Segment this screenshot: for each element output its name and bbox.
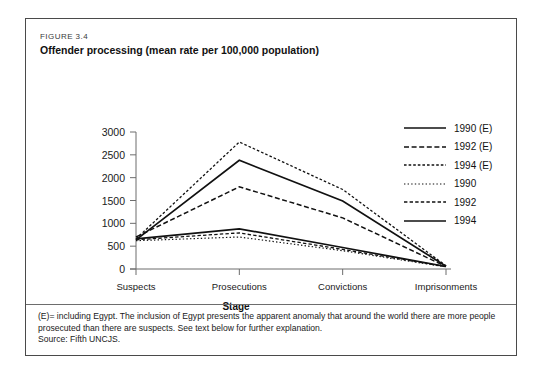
x-tick-label: Imprisonments xyxy=(415,281,478,292)
y-tick-label: 2500 xyxy=(102,149,126,161)
chart-series-line xyxy=(136,187,446,267)
chart-series-line xyxy=(136,237,446,267)
y-axis-ticks: 050010001500200025003000 xyxy=(102,126,136,275)
legend-line-swatch xyxy=(404,160,446,170)
legend-item[interactable]: 1992 xyxy=(404,193,514,212)
footnote-note: (E)= including Egypt. The inclusion of E… xyxy=(38,311,498,334)
footnote-source: Source: Fifth UNCJS. xyxy=(38,334,498,346)
footnote: (E)= including Egypt. The inclusion of E… xyxy=(38,311,498,346)
y-tick-label: 2000 xyxy=(102,172,126,184)
legend-line-swatch xyxy=(404,179,446,189)
figure-caption: FIGURE 3.4 Offender processing (mean rat… xyxy=(40,31,370,58)
legend-item[interactable]: 1990 xyxy=(404,175,514,194)
legend-item-label: 1992 (E) xyxy=(454,141,492,152)
legend-item-label: 1992 xyxy=(454,197,476,208)
footnote-divider xyxy=(26,304,516,305)
x-tick-label: Convictions xyxy=(318,281,367,292)
y-tick-label: 1000 xyxy=(102,217,126,229)
y-axis: 050010001500200025003000 xyxy=(102,126,136,275)
y-tick-label: 3000 xyxy=(102,126,126,138)
chart-legend: 1990 (E)1992 (E)1994 (E)199019921994 xyxy=(404,119,514,230)
legend-line-swatch xyxy=(404,197,446,207)
y-tick-label: 1500 xyxy=(102,195,126,207)
x-axis-labels: SuspectsProsecutionsConvictionsImprisonm… xyxy=(116,281,477,292)
legend-line-swatch xyxy=(404,142,446,152)
x-tick-label: Suspects xyxy=(116,281,155,292)
x-axis: SuspectsProsecutionsConvictionsImprisonm… xyxy=(116,269,477,292)
chart-series-line xyxy=(136,160,446,266)
x-tick-label: Prosecutions xyxy=(212,281,267,292)
page-title: Offender processing (mean rate per 100,0… xyxy=(40,44,370,58)
chart-series-line xyxy=(136,229,446,267)
legend-item-label: 1994 (E) xyxy=(454,160,492,171)
legend-item[interactable]: 1990 (E) xyxy=(404,119,514,138)
x-axis-ticks xyxy=(136,269,446,275)
y-tick-label: 0 xyxy=(119,263,125,275)
legend-item-label: 1990 xyxy=(454,178,476,189)
chart-series-group xyxy=(136,142,446,267)
legend-item-label: 1994 xyxy=(454,215,476,226)
figure-card: FIGURE 3.4 Offender processing (mean rat… xyxy=(25,18,517,356)
legend-item[interactable]: 1992 (E) xyxy=(404,138,514,157)
legend-item-label: 1990 (E) xyxy=(454,123,492,134)
legend-item[interactable]: 1994 (E) xyxy=(404,156,514,175)
legend-line-swatch xyxy=(404,216,446,226)
y-tick-label: 500 xyxy=(107,240,125,252)
legend-line-swatch xyxy=(404,123,446,133)
legend-item[interactable]: 1994 xyxy=(404,212,514,231)
figure-number: FIGURE 3.4 xyxy=(40,31,370,42)
